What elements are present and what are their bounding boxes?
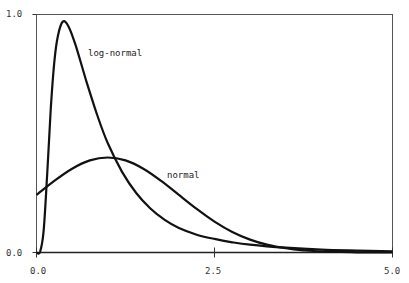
y-tick-label-top: 1.0 [6,9,22,19]
normal-label: normal [167,170,200,180]
chart: 1.0 0.0 0.0 2.5 5.0 log-normal normal [0,0,409,283]
y-tick-label-bottom: 0.0 [6,248,22,258]
x-tick-label-1: 2.5 [205,266,221,276]
log-normal-label: log-normal [88,48,142,58]
x-tick-label-2: 5.0 [384,266,400,276]
x-tick-label-0: 0.0 [30,266,46,276]
